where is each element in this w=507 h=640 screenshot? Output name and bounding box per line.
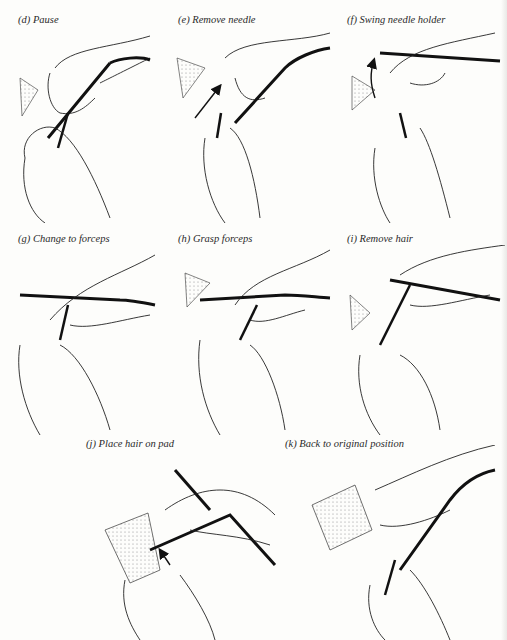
hand-illustration <box>235 250 330 321</box>
caption-e: (e) Remove needle <box>178 14 256 25</box>
arrow-icon <box>195 86 220 118</box>
needle-holder-icon <box>380 53 500 61</box>
needle-holder-icon <box>150 515 275 565</box>
illustration-d <box>0 28 170 223</box>
hand-illustration <box>19 345 110 435</box>
hand-illustration <box>359 355 440 435</box>
illustration-k <box>300 445 507 640</box>
illustration-h <box>165 245 335 435</box>
arrow-icon <box>160 550 170 565</box>
illustration-e <box>165 28 335 223</box>
dotted-pad-icon <box>350 295 370 330</box>
forceps-icon <box>385 560 395 595</box>
dotted-pad-icon <box>177 58 205 98</box>
caption-g: (g) Change to forceps <box>18 233 109 244</box>
dotted-pad-icon <box>185 273 210 307</box>
hand-illustration <box>374 128 450 223</box>
caption-f: (f) Swing needle holder <box>347 14 445 25</box>
caption-h: (h) Grasp forceps <box>178 233 252 244</box>
hand-illustration <box>24 127 110 223</box>
hand-illustration <box>204 128 260 223</box>
forceps-icon <box>400 113 406 138</box>
hand-illustration <box>369 570 450 640</box>
forceps-icon <box>217 113 221 138</box>
dotted-pad-icon <box>20 78 38 116</box>
caption-j: (j) Place hair on pad <box>86 438 174 449</box>
illustration-g <box>0 245 170 435</box>
illustration-i <box>330 245 507 435</box>
forceps-icon <box>175 470 210 510</box>
caption-d: (d) Pause <box>18 14 59 25</box>
needle-holder-icon <box>235 48 330 123</box>
needle-holder-icon <box>200 295 330 300</box>
forceps-icon <box>380 285 410 345</box>
dotted-pad-icon <box>312 485 372 550</box>
hand-illustration <box>225 33 330 100</box>
hand-illustration <box>199 340 285 435</box>
forceps-icon <box>60 305 68 340</box>
illustration-f <box>330 28 507 223</box>
forceps-icon <box>240 305 257 340</box>
needle-holder-icon <box>400 470 495 570</box>
hand-illustration <box>124 575 215 640</box>
needle-holder-icon <box>20 295 155 305</box>
illustration-j <box>100 455 300 640</box>
caption-i: (i) Remove hair <box>347 233 413 244</box>
hand-illustration <box>375 445 495 526</box>
